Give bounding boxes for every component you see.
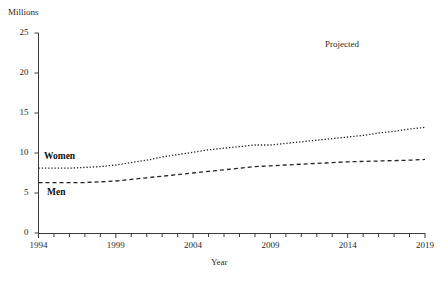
x-axis-tick-label: 2019 <box>405 240 443 250</box>
y-axis-tick-label: 0 <box>7 227 29 237</box>
x-axis-tick-label: 2014 <box>328 240 368 250</box>
chart-plot-area <box>0 0 443 284</box>
x-axis-tick-label: 2009 <box>250 240 290 250</box>
axes-group <box>39 33 426 234</box>
x-axis-tick-label: 2004 <box>173 240 213 250</box>
y-axis-tick-label: 25 <box>7 27 29 37</box>
y-axis-tick-label: 10 <box>7 147 29 157</box>
x-axis-tick-label: 1994 <box>19 240 59 250</box>
series-line-women <box>39 127 426 168</box>
y-axis-ticks <box>35 33 39 233</box>
chart-container: Millions 0510152025 19941999200420092014… <box>0 0 443 284</box>
y-axis-tick-label: 20 <box>7 67 29 77</box>
data-series-group <box>39 127 426 182</box>
y-axis-tick-label: 15 <box>7 107 29 117</box>
x-axis-tick-label: 1999 <box>96 240 136 250</box>
series-label-men: Men <box>47 187 65 197</box>
projected-annotation: Projected <box>325 39 359 49</box>
series-line-men <box>39 159 426 182</box>
y-axis-tick-label: 5 <box>7 187 29 197</box>
series-label-women: Women <box>44 151 75 161</box>
x-axis-title: Year <box>211 257 228 267</box>
